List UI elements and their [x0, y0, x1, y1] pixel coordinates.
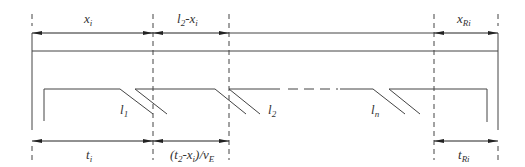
label-l2-xi: l2-xi: [177, 12, 198, 28]
label-xRi: xRi: [457, 12, 471, 28]
segment-1-profile: [44, 89, 153, 121]
segment-end-profile: [389, 89, 487, 122]
label-l2: l2: [268, 103, 276, 119]
label-l1: l1: [120, 103, 128, 119]
label-t2-xi-vE: (t2-xi)/vE: [170, 148, 214, 164]
label-tRi: tRi: [458, 148, 470, 164]
label-ti: ti: [86, 148, 92, 164]
track-section-diagram: [0, 0, 525, 167]
label-xi: xi: [84, 12, 92, 28]
label-ln: ln: [371, 103, 379, 119]
